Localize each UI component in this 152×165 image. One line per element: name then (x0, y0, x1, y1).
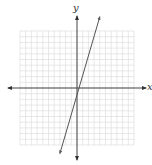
y-axis-label: y (73, 3, 79, 13)
x-axis-label: x (147, 82, 152, 92)
coordinate-plane (0, 0, 152, 165)
